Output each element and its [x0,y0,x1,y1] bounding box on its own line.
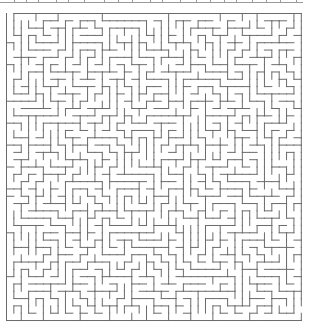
top-strip-border [0,0,303,3]
maze-walls [7,14,302,321]
maze-board [0,0,311,329]
